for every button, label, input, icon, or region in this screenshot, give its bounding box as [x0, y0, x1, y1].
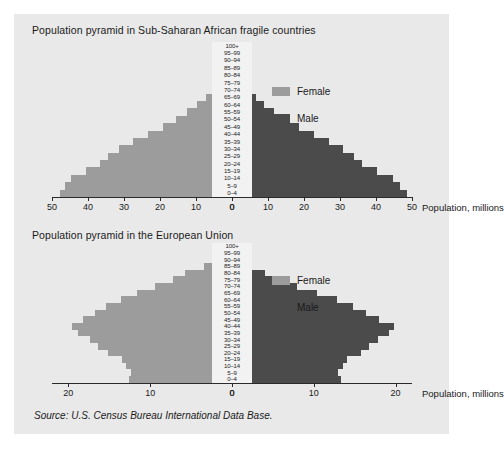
pyramid-half-female [52, 290, 232, 297]
pyramid-row [52, 175, 412, 182]
bar-female [106, 303, 232, 310]
bar-male [232, 250, 234, 257]
bar-male [232, 57, 234, 64]
bar-male [232, 175, 393, 182]
bar-female [218, 256, 232, 263]
x-axis-tick-label: 50 [407, 202, 417, 212]
pyramid-half-male [232, 250, 412, 257]
pyramid-row [52, 101, 412, 108]
bar-female [223, 72, 232, 79]
pyramid-half-male [232, 153, 412, 160]
pyramid-row [52, 343, 412, 350]
bar-female [119, 145, 232, 152]
bar-male [232, 86, 249, 93]
pyramid-half-male [232, 190, 412, 197]
bar-female [137, 290, 232, 297]
pyramid-row [52, 190, 412, 197]
pyramid-row [52, 350, 412, 357]
x-axis-tick [52, 197, 53, 201]
bar-female [213, 86, 232, 93]
pyramid-half-female [52, 343, 232, 350]
pyramid-row [52, 336, 412, 343]
pyramid-row [52, 64, 412, 71]
bar-male [232, 190, 407, 197]
pyramid-half-female [52, 167, 232, 174]
pyramid-half-male [232, 64, 412, 71]
pyramid-row [52, 57, 412, 64]
pyramid-half-female [52, 86, 232, 93]
bar-male [232, 101, 264, 108]
pyramid-row [52, 42, 412, 49]
x-axis-tick-label: 10 [191, 202, 201, 212]
bar-female [95, 310, 232, 317]
bar-female [108, 350, 232, 357]
x-axis-tick-label: 20 [63, 388, 73, 398]
bar-male [232, 108, 274, 115]
pyramid-half-female [52, 101, 232, 108]
legend-label-male: Male [297, 113, 319, 124]
x-axis-tick-label: 50 [47, 202, 57, 212]
pyramid-half-female [52, 363, 232, 370]
pyramid-row [52, 243, 412, 250]
pyramid-half-female [52, 276, 232, 283]
bar-male [232, 343, 369, 350]
bar-female [176, 116, 232, 123]
source-note: Source: U.S. Census Bureau International… [34, 410, 272, 421]
pyramid-row [52, 138, 412, 145]
x-axis-tick [150, 383, 151, 387]
pyramid-half-female [52, 123, 232, 130]
pyramid-half-female [52, 190, 232, 197]
pyramid-row [52, 86, 412, 93]
pyramid-row [52, 108, 412, 115]
bar-female [83, 316, 232, 323]
pyramid-half-male [232, 57, 412, 64]
legend-label-female: Female [297, 275, 330, 286]
x-axis-tick [396, 383, 397, 387]
pyramid-row [52, 94, 412, 101]
pyramid-half-female [52, 145, 232, 152]
bar-male [232, 270, 265, 277]
legend-item-male: Male [272, 113, 330, 124]
x-axis-tick-label: 10 [145, 388, 155, 398]
pyramid-row [52, 131, 412, 138]
pyramid-half-female [52, 376, 232, 383]
bar-male [232, 363, 343, 370]
pyramid-row [52, 182, 412, 189]
pyramid-half-female [52, 250, 232, 257]
pyramid-row [52, 123, 412, 130]
pyramid-half-female [52, 310, 232, 317]
pyramid-half-female [52, 42, 232, 49]
bar-male [232, 72, 239, 79]
pyramid-row [52, 369, 412, 376]
pyramid-half-female [52, 350, 232, 357]
pyramid-half-female [52, 116, 232, 123]
pyramid-row [52, 49, 412, 56]
bar-female [197, 101, 232, 108]
bar-female [72, 323, 232, 330]
x-axis-tick [376, 197, 377, 201]
x-axis-unit-label: Population, millions [422, 202, 504, 213]
pyramid-half-female [52, 160, 232, 167]
pyramid-half-male [232, 160, 412, 167]
bar-female [129, 376, 232, 383]
legend-swatch-female-icon [272, 87, 290, 96]
pyramid-row [52, 116, 412, 123]
pyramid-row [52, 153, 412, 160]
pyramid-half-female [52, 57, 232, 64]
plot-area-sub-saharan-africa: 100+95–9990–9485–8980–8475–7970–7465–696… [52, 42, 412, 197]
pyramid-half-female [52, 94, 232, 101]
bar-female [98, 343, 232, 350]
x-axis-tick [160, 197, 161, 201]
x-axis-tick [68, 383, 69, 387]
bar-female [126, 363, 232, 370]
pyramid-row [52, 283, 412, 290]
bar-female [86, 167, 232, 174]
bar-female [65, 182, 232, 189]
plot-area-european-union: 100+95–9990–9485–8980–8475–7970–7465–696… [52, 243, 412, 383]
bar-male [232, 376, 341, 383]
x-axis-tick-label: 20 [155, 202, 165, 212]
pyramid-half-female [52, 64, 232, 71]
pyramid-half-female [52, 182, 232, 189]
pyramid-half-female [52, 108, 232, 115]
bar-female [173, 276, 232, 283]
